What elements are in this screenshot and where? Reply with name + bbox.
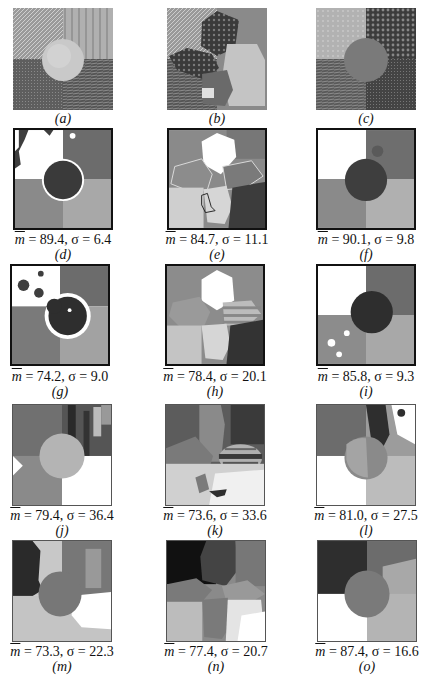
panel-j-caption: m = 79.4, σ = 36.4 (j) <box>0 508 132 538</box>
panel-g-image <box>10 264 110 366</box>
panel-a-caption: (a) <box>0 111 133 126</box>
panel-n-image <box>166 540 266 642</box>
panel-o-image <box>317 540 417 642</box>
panel-d-metrics: m = 89.4, σ = 6.4 <box>0 232 133 247</box>
panel-g-metrics: m = 74.2, σ = 9.0 <box>0 369 130 384</box>
panel-l-metrics: m = 81.0, σ = 27.5 <box>296 508 429 523</box>
panel-h-image <box>165 264 265 366</box>
panel-l-image <box>316 404 416 506</box>
panel-m-metrics: m = 73.3, σ = 22.3 <box>0 644 132 659</box>
panel-h-caption: m = 78.4, σ = 20.1 (h) <box>145 369 285 399</box>
panel-j-metrics: m = 79.4, σ = 36.4 <box>0 508 132 523</box>
panel-l-caption: m = 81.0, σ = 27.5 (l) <box>296 508 429 538</box>
panel-m-caption: m = 73.3, σ = 22.3 (m) <box>0 644 132 674</box>
panel-i-metrics: m = 85.8, σ = 9.3 <box>296 369 429 384</box>
panel-o-caption: m = 87.4, σ = 16.6 (o) <box>297 644 429 674</box>
panel-f-metrics: m = 90.1, σ = 9.8 <box>296 232 429 247</box>
panel-n-caption: m = 77.4, σ = 20.7 (n) <box>146 644 286 674</box>
panel-h-metrics: m = 78.4, σ = 20.1 <box>145 369 285 384</box>
panel-f-caption: m = 90.1, σ = 9.8 (f) <box>296 232 429 262</box>
panel-f-image <box>316 128 416 230</box>
panel-n-metrics: m = 77.4, σ = 20.7 <box>146 644 286 659</box>
panel-k-image <box>165 404 265 506</box>
panel-m-image <box>12 540 112 642</box>
panel-b-image <box>167 8 267 110</box>
panel-c-caption: (c) <box>296 111 429 126</box>
panel-e-metrics: m = 84.7, σ = 11.1 <box>147 232 287 247</box>
panel-e-image <box>167 128 267 230</box>
panel-g-caption: m = 74.2, σ = 9.0 (g) <box>0 369 130 399</box>
panel-d-caption: m = 89.4, σ = 6.4 (d) <box>0 232 133 262</box>
panel-k-caption: m = 73.6, σ = 33.6 (k) <box>145 508 285 538</box>
panel-b-caption: (b) <box>147 111 287 126</box>
panel-d-image <box>13 128 113 230</box>
panel-i-image <box>316 264 416 366</box>
panel-j-image <box>12 404 112 506</box>
panel-e-caption: m = 84.7, σ = 11.1 (e) <box>147 232 287 262</box>
panel-a-image <box>13 8 113 110</box>
panel-k-metrics: m = 73.6, σ = 33.6 <box>145 508 285 523</box>
panel-o-metrics: m = 87.4, σ = 16.6 <box>297 644 429 659</box>
panel-i-caption: m = 85.8, σ = 9.3 (i) <box>296 369 429 399</box>
panel-c-image <box>316 8 416 110</box>
